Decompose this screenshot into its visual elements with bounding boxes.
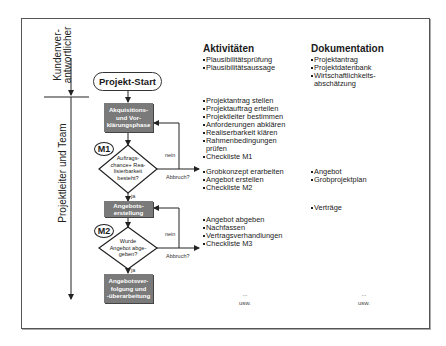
label-line: Akquisitions- [109,106,148,114]
documentation-etc: usw. [349,300,379,306]
bullet-icon [203,132,205,134]
bullet-icon [203,219,205,221]
item-text: Grobprojektplan [314,175,367,184]
documentation-header: Dokumentation [311,43,384,54]
process-acquisition: Akquisitions- und Vor- klärungsphase [104,103,153,132]
bullet-icon [311,59,313,61]
item-text: Checkliste M1 [206,152,252,161]
bullet-icon [203,227,205,229]
bullet-icon [311,75,313,77]
label-line: lisierbarkeit [110,168,146,175]
doc-item-continued: abschätzung [314,80,356,88]
label-line: Angebot abge- [108,245,148,252]
item-text: Plausibilitätsaussage [206,63,275,72]
bullet-icon [311,171,313,173]
bullet-icon [203,124,205,126]
bullet-icon [203,100,205,102]
label-line: Angebots- [113,202,144,210]
bullet-icon [203,235,205,237]
documentation-ellipsis: ... [349,291,379,297]
lane-team-label: Projektleiter und Team [58,98,68,248]
label-line: chance+ Rea- [110,162,146,169]
process-offer-creation: Angebots- erstellung [104,201,153,217]
activity-item: Checkliste M1 [203,153,252,161]
m1-abort-label: Abbruch? [166,174,190,180]
m2-yes-label: ja [131,267,135,273]
label-line: und Vor- [116,114,141,122]
m2-abort-label: Abbruch? [166,253,190,259]
label-line: geben? [108,251,148,258]
bullet-icon [311,179,313,181]
bullet-icon [203,156,205,158]
bullet-icon [311,67,313,69]
bullet-icon [203,171,205,173]
label-line: Auftrags- [110,155,146,162]
item-text: abschätzung [314,79,356,88]
label-line: Angebotsver- [109,277,149,285]
bullet-icon [203,187,205,189]
activity-item: Checkliste M3 [203,240,252,248]
milestone-m2-badge: M2 [94,224,114,238]
process-offer-followup: Angebotsver- folgung und -überarbeitung [104,274,153,303]
bullet-icon [203,243,205,245]
doc-item: Grobprojektplan [311,176,367,184]
bullet-icon [203,179,205,181]
m1-no-label: nein [165,152,175,158]
label-line: klärungsphase [107,121,151,129]
bullet-icon [203,116,205,118]
activity-item: Checkliste M2 [203,184,252,192]
activities-ellipsis: ... [230,291,260,297]
bullet-icon [203,67,205,69]
start-node: Projekt-Start [93,72,162,91]
m2-no-label: nein [165,231,175,237]
milestone-m1-question: Auftrags- chance+ Rea- lisierbarkeit bes… [110,155,146,181]
label-line: erstellung [114,209,144,217]
label-line: -überarbeitung [107,292,151,300]
activities-header: Aktivitäten [203,43,254,54]
label-line: folgung und [111,285,147,293]
item-text: Checkliste M3 [206,239,252,248]
label-line: Wurde [108,238,148,245]
milestone-m2-question: Wurde Angebot abge- geben? [108,238,148,258]
activities-etc: usw. [230,300,260,306]
lane-customer-label: Kundenver- antwortlicher [53,20,73,90]
m1-yes-label: ja [131,193,135,199]
item-text: Verträge [314,203,342,212]
bullet-icon [203,59,205,61]
bullet-icon [203,140,205,142]
doc-item: Verträge [311,204,342,212]
bullet-icon [311,207,313,209]
bullet-icon [203,108,205,110]
item-text: Checkliste M2 [206,183,252,192]
label-line: besteht? [110,175,146,182]
label-line: antwortlicher [63,20,73,90]
milestone-m1-badge: M1 [94,142,114,156]
activity-item: Plausibilitätsaussage [203,64,275,72]
